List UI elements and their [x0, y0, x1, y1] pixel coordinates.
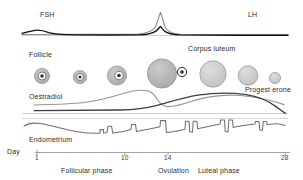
label-luteal-phase: Luteal phase [198, 167, 240, 174]
day-axis [35, 150, 290, 156]
label-follicular-phase: Follicular phase [61, 167, 112, 174]
day-tick-label-1: 1 [35, 155, 39, 162]
day-tick-label-28: 28 [281, 155, 289, 162]
label-follicle: Follicle [29, 51, 52, 58]
follicle-stage-primary [73, 70, 86, 83]
menstrual-cycle-diagram: FSH LH Follicle Corpus luteum Oestradiol… [0, 0, 303, 180]
day-tick-label-14: 14 [164, 155, 172, 162]
label-endometrium: Endometrium [29, 136, 72, 143]
label-day-axis-title: Day [7, 148, 20, 155]
ovum-icon [117, 74, 121, 78]
follicle-stage-graafian [147, 59, 176, 88]
follicle-stage-secondary [107, 66, 126, 85]
label-oestradiol: Oestradiol [29, 93, 62, 100]
ovum-icon [40, 74, 43, 77]
ovum-icon [79, 76, 82, 79]
label-progesterone: Progest erone [245, 86, 291, 93]
label-fsh: FSH [40, 11, 54, 18]
endometrium-curve [24, 120, 285, 133]
endometrium-panel [22, 119, 288, 134]
follicle-panel [34, 59, 280, 88]
label-lh: LH [248, 11, 257, 18]
day-tick-label-10: 10 [121, 155, 129, 162]
corpus-luteum-early [200, 61, 226, 87]
ovum-icon [180, 70, 184, 74]
released-ovum [177, 67, 186, 76]
corpus-albicans [269, 72, 280, 83]
label-ovulation: Ovulation [158, 167, 189, 174]
label-corpus-luteum: Corpus luteum [188, 45, 235, 52]
follicle-stage-primordial [34, 68, 49, 83]
corpus-luteum-mid [238, 66, 258, 86]
